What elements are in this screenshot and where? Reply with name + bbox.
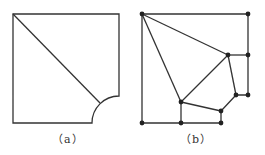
node <box>219 121 224 126</box>
node <box>179 100 184 105</box>
node <box>219 109 224 114</box>
figure-canvas <box>0 0 265 155</box>
node <box>246 12 251 17</box>
caption-b: （b） <box>180 130 212 146</box>
node <box>246 53 251 58</box>
node <box>140 121 145 126</box>
node <box>140 12 145 17</box>
caption-a: （a） <box>52 130 84 146</box>
edge <box>181 55 228 102</box>
edge <box>228 55 236 95</box>
node <box>179 121 184 126</box>
mesh-nodes <box>140 12 251 126</box>
outer-boundary <box>142 14 248 123</box>
edge <box>181 102 221 111</box>
node <box>226 53 231 58</box>
panel-a <box>13 14 119 123</box>
edge <box>142 14 181 102</box>
node <box>246 93 251 98</box>
panel-b <box>142 14 248 123</box>
node <box>234 93 239 98</box>
diagonal-line <box>13 14 100 103</box>
edge <box>142 14 228 55</box>
